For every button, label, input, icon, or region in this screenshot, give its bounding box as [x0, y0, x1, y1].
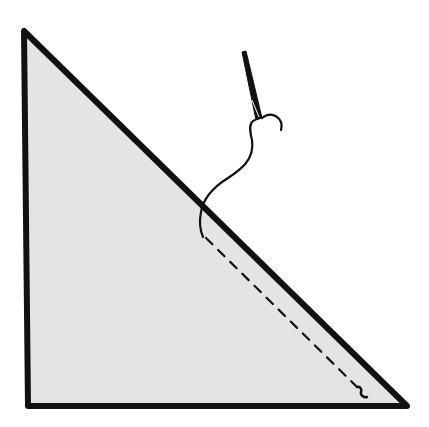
- sewing-diagram: [0, 0, 429, 427]
- needle-icon: [242, 51, 262, 120]
- diagram-canvas: [0, 0, 429, 427]
- fabric-triangle: [24, 31, 407, 406]
- thread-loop: [262, 115, 281, 130]
